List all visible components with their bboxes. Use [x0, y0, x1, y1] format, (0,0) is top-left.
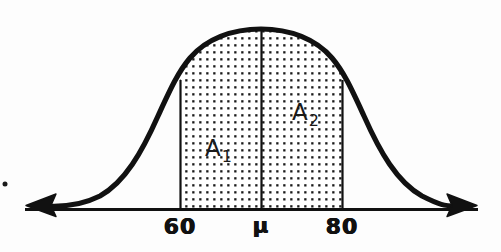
normal-distribution-figure: 60 μ 80 A1 A2: [0, 0, 501, 252]
axis-label-60: 60: [164, 214, 197, 239]
area-label-a1: A1: [205, 135, 231, 161]
area-label-a2-base: A: [292, 99, 308, 125]
ink-speck: [3, 182, 8, 187]
area-label-a2: A2: [292, 99, 318, 125]
left-arrow-icon: [26, 194, 56, 217]
distribution-diagram: [0, 0, 501, 252]
axis-label-80: 80: [326, 214, 359, 239]
axis-label-mu: μ: [253, 214, 269, 238]
area-label-a1-subscript: 1: [222, 147, 232, 166]
area-label-a1-base: A: [205, 135, 221, 161]
right-arrow-icon: [447, 194, 477, 217]
area-label-a2-subscript: 2: [309, 111, 319, 130]
